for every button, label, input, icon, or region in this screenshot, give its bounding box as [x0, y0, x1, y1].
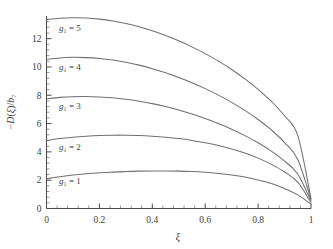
curve-label: g₁ = 5 — [59, 23, 81, 33]
y-axis-title: −D(ξ)/b7 — [5, 94, 17, 130]
y-tick-label: 4 — [37, 147, 42, 157]
x-tick-label: 0.4 — [146, 215, 158, 225]
y-axis-tick-labels: 024681012 — [32, 34, 42, 214]
y-tick-label: 12 — [32, 34, 42, 44]
curve-label: g₁ = 4 — [59, 62, 81, 72]
chart-figure: 024681012 00.20.40.60.81 g₁ = 1g₁ = 2g₁ … — [0, 0, 333, 249]
svg-text:−D(ξ)/b7: −D(ξ)/b7 — [5, 94, 17, 130]
x-tick-label: 1 — [309, 215, 314, 225]
y-tick-label: 0 — [37, 204, 42, 214]
data-curve — [47, 171, 312, 204]
y-tick-label: 10 — [32, 62, 42, 72]
x-axis-tick-labels: 00.20.40.60.81 — [44, 215, 314, 225]
y-tick-label: 8 — [37, 91, 42, 101]
plot-svg: 024681012 00.20.40.60.81 g₁ = 1g₁ = 2g₁ … — [0, 0, 333, 249]
y-axis-ticks — [47, 22, 52, 209]
data-curve — [47, 57, 312, 199]
curve-label: g₁ = 2 — [59, 142, 81, 152]
x-axis-title: ξ — [176, 231, 181, 243]
x-tick-label: 0.8 — [252, 215, 264, 225]
curve-label: g₁ = 3 — [59, 101, 81, 111]
curve-label: g₁ = 1 — [59, 176, 81, 186]
curve-label-group: g₁ = 1g₁ = 2g₁ = 3g₁ = 4g₁ = 5 — [59, 23, 81, 186]
y-tick-label: 2 — [37, 175, 42, 185]
curve-series-group — [47, 18, 312, 205]
y-tick-label: 6 — [37, 119, 42, 129]
data-curve — [47, 135, 312, 202]
data-curve — [47, 97, 312, 202]
x-tick-label: 0.2 — [93, 215, 105, 225]
x-axis-ticks — [47, 204, 312, 209]
axes-group — [47, 16, 312, 209]
x-tick-label: 0.6 — [199, 215, 211, 225]
x-tick-label: 0 — [44, 215, 49, 225]
